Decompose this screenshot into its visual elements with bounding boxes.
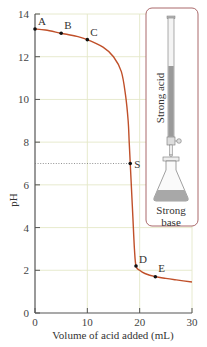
strong-acid-label: Strong acid (154, 72, 166, 123)
point-e (154, 275, 158, 279)
x-axis-ticks: 0102030 (32, 308, 198, 328)
point-label-d: D (139, 253, 147, 265)
titration-chart: 02468101214 0102030 pH Volume of acid ad… (0, 0, 207, 347)
strong-base-label-line2: base (161, 216, 181, 228)
y-tick-label: 0 (24, 307, 30, 319)
y-tick-label: 12 (18, 51, 29, 63)
data-points: ABCSDE (33, 15, 165, 279)
point-label-a: A (38, 15, 46, 27)
x-tick-label: 10 (82, 316, 94, 328)
y-tick-label: 10 (18, 93, 30, 105)
point-label-c: C (90, 26, 97, 38)
x-tick-label: 20 (134, 316, 146, 328)
point-label-e: E (158, 262, 165, 274)
x-tick-label: 30 (187, 316, 199, 328)
y-tick-label: 4 (24, 222, 30, 234)
x-axis-label: Volume of acid added (mL) (52, 329, 174, 342)
point-d (134, 264, 138, 268)
y-axis-label: pH (7, 193, 19, 207)
point-label-b: B (64, 19, 71, 31)
y-axis-ticks: 02468101214 (18, 8, 40, 319)
y-tick-label: 8 (24, 136, 30, 148)
point-a (33, 27, 37, 31)
titration-apparatus-inset: Strong acid Strong base (146, 8, 198, 228)
point-s (128, 162, 132, 166)
point-b (59, 31, 63, 35)
strong-base-label-line1: Strong (156, 204, 186, 216)
y-tick-label: 2 (24, 264, 30, 276)
point-c (86, 38, 90, 42)
x-tick-label: 0 (32, 316, 38, 328)
y-tick-label: 14 (18, 8, 30, 20)
y-tick-label: 6 (24, 179, 30, 191)
point-label-s: S (134, 158, 140, 170)
